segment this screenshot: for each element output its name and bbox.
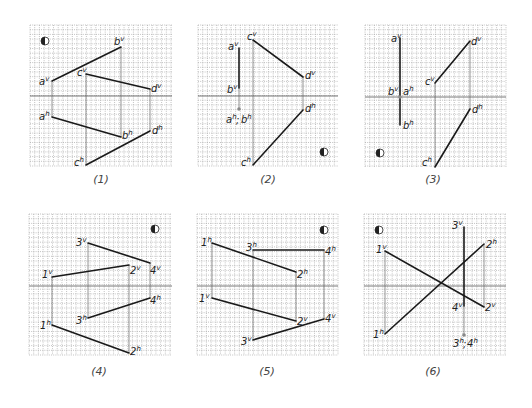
point-label: 1v	[199, 292, 210, 304]
point-label: av	[39, 75, 50, 87]
point-label: ch	[74, 156, 84, 168]
point-label: ah	[226, 113, 237, 125]
grid	[365, 25, 506, 167]
panel-caption: (3)	[425, 173, 441, 186]
point-label: 1v	[376, 243, 387, 255]
coincident-point	[398, 95, 402, 99]
point-label: 2h	[486, 238, 497, 250]
point-label: dv	[305, 69, 316, 81]
half-filled-circle-icon	[151, 225, 159, 233]
point-label: dv	[471, 35, 482, 47]
point-label: 1h	[373, 328, 384, 340]
panel-5: 1h2h3h4h1v2v3v4v(5)	[197, 214, 338, 378]
point-label: 2h	[297, 268, 308, 280]
point-label: dv	[151, 82, 162, 94]
point-label: bv	[227, 83, 238, 95]
point-label: 4h	[325, 245, 336, 257]
point-label: 2v	[297, 315, 308, 327]
point-label: bv	[388, 85, 399, 97]
point-label: 3h	[246, 241, 257, 253]
label-separator: ;	[463, 338, 466, 349]
grid	[29, 214, 172, 355]
point-label: 4h	[467, 337, 478, 349]
half-filled-circle-icon	[375, 226, 383, 234]
point-label: 1h	[40, 319, 51, 331]
point-label: 2v	[485, 301, 496, 313]
label-separator: ;	[236, 114, 239, 125]
grid	[30, 25, 172, 166]
point-label: dh	[305, 102, 316, 114]
point-label: 3v	[241, 335, 252, 347]
panel-caption: (1)	[93, 173, 109, 186]
grid	[198, 25, 338, 166]
point-label: 4v	[452, 301, 463, 313]
point-label: 4v	[325, 312, 336, 324]
panel-2: avbvcvdvahbhdhch;(2)	[198, 25, 338, 186]
point-label: av	[228, 40, 239, 52]
point-label: ch	[422, 156, 432, 168]
half-filled-circle-icon	[376, 149, 384, 157]
point-label: bh	[122, 129, 133, 141]
panel-caption: (5)	[259, 365, 275, 378]
point-label: 1h	[201, 236, 212, 248]
point-label: 3v	[452, 219, 463, 231]
point-label: 3v	[76, 236, 87, 248]
line-segment	[88, 243, 150, 263]
line-segment	[52, 325, 129, 353]
panel-4: 1v2v3v4v1h2h3h4h(4)	[29, 214, 172, 378]
point-label: cv	[247, 30, 258, 42]
point-label: dh	[472, 103, 483, 115]
panel-6: 1v2v3v4v1h2h3h4h;(6)	[364, 214, 506, 378]
point-label: ah	[39, 110, 50, 122]
point-label: 2v	[130, 264, 141, 276]
point-label: bh	[241, 113, 252, 125]
point-label: 4h	[150, 294, 161, 306]
panel-1: avbvcvdvahbhchdh(1)	[30, 25, 172, 186]
grid	[197, 214, 338, 355]
panel-3: avbvahbhcvdvdhch(3)	[365, 25, 506, 186]
half-filled-circle-icon	[320, 226, 328, 234]
panel-caption: (4)	[91, 365, 107, 378]
projection-diagram-canvas: avbvcvdvahbhchdh(1)avbvcvdvahbhdhch;(2)a…	[0, 0, 532, 408]
half-filled-circle-icon	[41, 37, 49, 45]
point-label: cv	[425, 75, 436, 87]
coincident-point	[237, 107, 241, 111]
panel-caption: (6)	[425, 365, 441, 378]
panel-caption: (2)	[260, 173, 276, 186]
point-label: 4v	[150, 264, 161, 276]
point-label: dh	[152, 124, 163, 136]
line-segment	[212, 298, 296, 321]
half-filled-circle-icon	[320, 148, 328, 156]
point-label: bv	[114, 35, 125, 47]
